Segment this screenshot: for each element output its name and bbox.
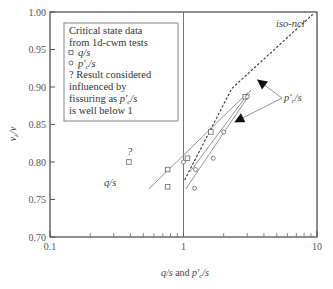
annotation-arrows [234, 80, 282, 123]
y-tick-label: 0.75 [29, 194, 47, 205]
legend-title-line1: Critical state data [69, 25, 143, 36]
data-point-circle [222, 130, 226, 134]
x-axis: 0.1110 [44, 231, 322, 252]
qs-line-label: q/s [104, 177, 116, 188]
legend-item-q: q/s [78, 47, 90, 58]
pc-annotation-label: p'c/s [283, 92, 302, 105]
x-tick-label: 0.1 [44, 241, 57, 252]
y-tick-label: 0.85 [29, 119, 47, 130]
data-point-circle [211, 156, 215, 160]
data-point-square [165, 184, 170, 189]
data-point-square [165, 167, 170, 172]
data-point-circle [194, 168, 198, 172]
iso-ncl-label: iso-ncl [276, 18, 305, 29]
data-point-circle [245, 95, 249, 99]
data-point-circle [193, 186, 197, 190]
data-point-square [185, 156, 190, 161]
x-axis-label: q/s and p'c/s [161, 267, 209, 280]
data-point-circle [182, 160, 186, 164]
y-tick-label: 0.95 [29, 44, 47, 55]
y-tick-label: 1.00 [29, 7, 47, 18]
y-tick-label: 0.80 [29, 157, 47, 168]
legend-note-line4: is well below 1 [69, 105, 133, 116]
x-tick-label: 10 [312, 241, 322, 252]
legend-note-line2: influenced by [69, 81, 127, 92]
y-tick-label: 0.90 [29, 82, 47, 93]
fit-line [186, 94, 250, 189]
legend: Critical state data from 1d-cwm tests q/… [64, 23, 178, 121]
fit-line [190, 90, 251, 172]
data-point-square [208, 130, 213, 135]
y-axis: 0.700.750.800.850.900.951.00 [29, 7, 56, 243]
data-point-square [127, 160, 132, 165]
question-mark-label: ? [127, 146, 133, 157]
chart: 0.700.750.800.850.900.951.00 0.1110 vλ/v… [0, 0, 333, 289]
x-tick-label: 1 [181, 241, 186, 252]
y-axis-label: vλ/v [7, 126, 20, 141]
legend-note-line1: ? Result considered [69, 69, 152, 80]
arrowhead-icon [257, 80, 268, 90]
